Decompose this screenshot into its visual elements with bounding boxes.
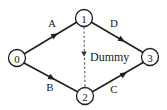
edge-label-c: C <box>110 83 117 95</box>
node-label-2: 2 <box>82 91 88 103</box>
node-label-1: 1 <box>81 13 87 25</box>
edge-label-dummy: Dummy <box>90 50 129 64</box>
node-label-0: 0 <box>14 53 20 65</box>
arrowhead-dummy <box>81 52 87 57</box>
edge-label-d: D <box>110 17 118 29</box>
graph-diagram: 0 1 2 3 A B D C Dummy <box>0 0 167 110</box>
edge-label-a: A <box>48 17 56 29</box>
node-label-3: 3 <box>147 52 153 64</box>
edge-line-c <box>92 62 144 92</box>
graph-canvas: 0 1 2 3 A B D C Dummy <box>0 0 167 110</box>
arrowhead-a <box>50 33 58 39</box>
edge-line-dummy <box>84 27 85 88</box>
edge-label-b: B <box>46 81 53 93</box>
